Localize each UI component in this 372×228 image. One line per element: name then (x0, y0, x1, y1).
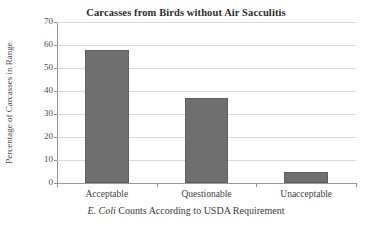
x-axis-category-labels: AcceptableQuestionableUnacceptable (57, 189, 356, 203)
y-tick-label-50: 50 (31, 63, 53, 72)
y-tick-label-60: 60 (31, 40, 53, 49)
x-axis-title-italic-part: E. Coli (88, 205, 116, 216)
y-axis-title: Percentage of Carcasses in Range (4, 42, 14, 163)
y-tick-mark-40 (54, 91, 57, 92)
x-tick-label-unacceptable: Unacceptable (256, 189, 356, 199)
gridline-0 (57, 183, 356, 184)
bar-questionable (185, 98, 229, 183)
y-tick-label-10: 10 (31, 155, 53, 164)
y-tick-label-20: 20 (31, 132, 53, 141)
bar-chart: Carcasses from Birds without Air Sacculi… (0, 0, 372, 228)
y-tick-label-70: 70 (31, 17, 53, 26)
bar-unacceptable (284, 172, 328, 184)
y-axis-tick-labels: 010203040506070 (29, 22, 53, 183)
x-tick-mark-3 (356, 183, 357, 187)
x-tick-mark-1 (157, 183, 158, 187)
x-tick-mark-2 (256, 183, 257, 187)
gridline-70 (57, 22, 356, 23)
y-tick-label-30: 30 (31, 109, 53, 118)
x-tick-label-acceptable: Acceptable (57, 189, 157, 199)
y-tick-mark-20 (54, 137, 57, 138)
plot-area (57, 22, 356, 183)
x-axis-title: E. Coli Counts According to USDA Require… (0, 205, 372, 216)
x-tick-mark-0 (57, 183, 58, 187)
x-axis-title-rest: Counts According to USDA Requirement (116, 205, 285, 216)
chart-title: Carcasses from Birds without Air Sacculi… (0, 7, 372, 18)
y-tick-mark-50 (54, 68, 57, 69)
y-tick-mark-60 (54, 45, 57, 46)
y-tick-mark-30 (54, 114, 57, 115)
x-tick-label-questionable: Questionable (157, 189, 257, 199)
bar-acceptable (85, 50, 129, 183)
y-tick-mark-10 (54, 160, 57, 161)
gridline-60 (57, 45, 356, 46)
y-tick-label-0: 0 (31, 178, 53, 187)
y-axis-title-container: Percentage of Carcasses in Range (2, 22, 16, 184)
y-tick-mark-70 (54, 22, 57, 23)
y-tick-label-40: 40 (31, 86, 53, 95)
